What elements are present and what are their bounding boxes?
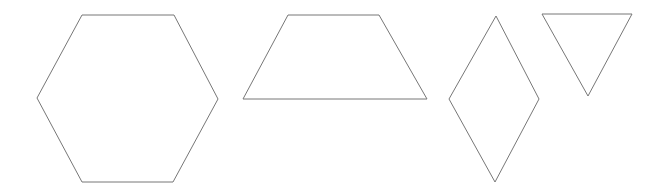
rhombus-shape (449, 16, 539, 182)
hexagon-shape (37, 15, 218, 182)
shapes-canvas (0, 0, 661, 193)
trapezoid-shape (243, 15, 427, 99)
shapes-diagram (0, 0, 661, 193)
triangle-shape (542, 14, 632, 96)
